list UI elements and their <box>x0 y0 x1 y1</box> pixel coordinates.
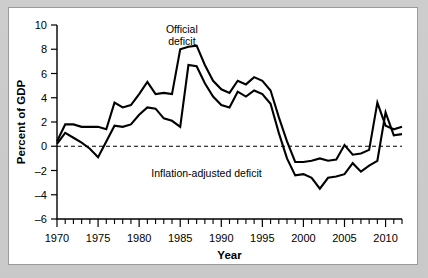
series-annotation-label: Inflation-adjusted deficit <box>151 167 261 179</box>
y-tick-label: –4 <box>35 189 47 201</box>
y-tick-label: 6 <box>41 68 47 80</box>
x-tick-label: 1985 <box>168 232 192 244</box>
x-tick-label: 1980 <box>127 232 151 244</box>
x-axis-title: Year <box>217 249 242 261</box>
figure-card: 1086420–2–4–6 19701975198019851990199520… <box>8 7 418 265</box>
figure-root: 1086420–2–4–6 19701975198019851990199520… <box>0 0 428 278</box>
y-tick-label: –6 <box>35 213 47 225</box>
x-tick-label: 1990 <box>209 232 233 244</box>
x-tick-group: 197019751980198519901995200020052010 <box>45 219 402 244</box>
y-tick-label: 8 <box>41 43 47 55</box>
x-tick-label: 1975 <box>86 232 110 244</box>
annotation-group: OfficialdeficitInflation-adjusted defici… <box>151 23 261 179</box>
x-tick-label: 2000 <box>291 232 315 244</box>
y-axis-title: Percent of GDP <box>15 79 27 164</box>
deficit-line-chart: 1086420–2–4–6 19701975198019851990199520… <box>9 8 417 264</box>
x-tick-label: 1995 <box>250 232 274 244</box>
y-tick-group: 1086420–2–4–6 <box>35 19 57 225</box>
x-tick-label: 2005 <box>332 232 356 244</box>
y-tick-label: 10 <box>35 19 47 31</box>
x-tick-label: 1970 <box>45 232 69 244</box>
series-annotation-label: deficit <box>168 35 196 47</box>
x-tick-label: 2010 <box>373 232 397 244</box>
y-tick-label: 2 <box>41 116 47 128</box>
series-annotation-label: Official <box>166 23 198 35</box>
series-official-deficit <box>57 46 402 162</box>
y-tick-label: 4 <box>41 92 47 104</box>
y-tick-label: –2 <box>35 165 47 177</box>
y-tick-label: 0 <box>41 140 47 152</box>
